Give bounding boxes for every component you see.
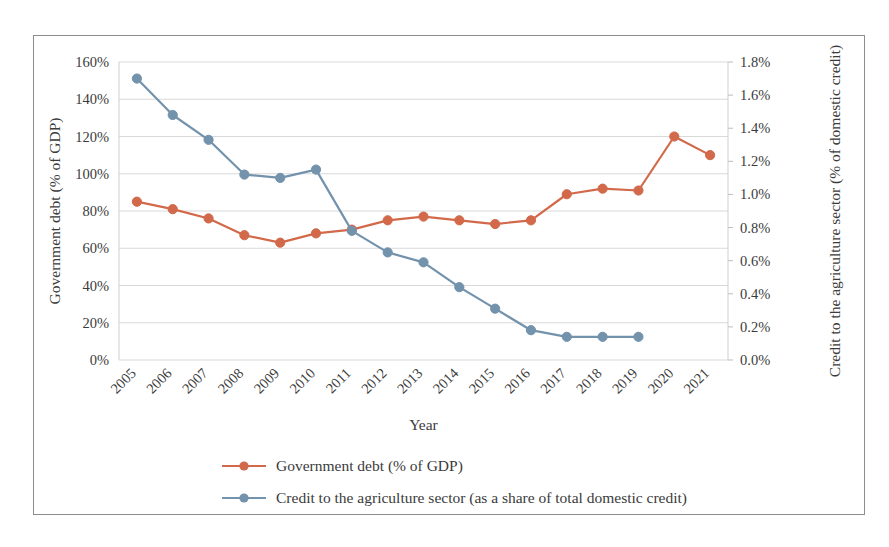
chart-figure-frame: 0%20%40%60%80%100%120%140%160%0.0%0.2%0.… xyxy=(33,35,865,515)
series-marker-2[interactable] xyxy=(598,332,607,341)
series-marker-2[interactable] xyxy=(204,135,213,144)
series-marker-2[interactable] xyxy=(347,226,356,235)
series-marker-2[interactable] xyxy=(168,110,177,119)
y-axis-tick-label: 120% xyxy=(75,129,109,145)
y2-axis-tick-label: 0.2% xyxy=(740,319,770,335)
x-axis-title: Year xyxy=(409,416,438,433)
x-axis-tick-label: 2007 xyxy=(179,365,211,397)
y2-axis-tick-label: 0.4% xyxy=(740,286,770,302)
series-marker-2[interactable] xyxy=(276,173,285,182)
series-marker-1[interactable] xyxy=(526,216,535,225)
y2-axis-title: Credit to the agriculture sector (% of d… xyxy=(826,45,844,377)
y-axis-title: Government debt (% of GDP) xyxy=(46,118,64,305)
series-marker-1[interactable] xyxy=(419,212,428,221)
series-marker-1[interactable] xyxy=(705,151,714,160)
y2-axis-tick-label: 1.6% xyxy=(740,87,770,103)
y-axis-tick-label: 80% xyxy=(82,203,109,219)
x-axis-tick-label: 2014 xyxy=(430,364,462,396)
y2-axis-tick-label: 0.8% xyxy=(740,220,770,236)
y-axis-tick-label: 160% xyxy=(75,54,109,70)
y-axis-tick-label: 100% xyxy=(75,166,109,182)
series-marker-1[interactable] xyxy=(598,184,607,193)
series-marker-2[interactable] xyxy=(240,170,249,179)
y-axis-tick-label: 0% xyxy=(90,352,109,368)
x-axis-tick-label: 2020 xyxy=(645,365,677,397)
x-axis-tick-label: 2009 xyxy=(251,365,283,397)
y-axis-tick-label: 40% xyxy=(82,278,109,294)
series-marker-1[interactable] xyxy=(311,229,320,238)
series-marker-1[interactable] xyxy=(276,238,285,247)
legend-label-1: Government debt (% of GDP) xyxy=(276,457,463,475)
series-marker-2[interactable] xyxy=(383,248,392,257)
y2-axis-tick-label: 1.0% xyxy=(740,186,770,202)
x-axis-tick-label: 2006 xyxy=(143,365,175,397)
y-axis-tick-label: 20% xyxy=(82,315,109,331)
y-axis-tick-label: 60% xyxy=(82,240,109,256)
x-axis-tick-label: 2011 xyxy=(323,365,354,396)
x-axis-tick-label: 2019 xyxy=(609,365,641,397)
series-marker-1[interactable] xyxy=(168,205,177,214)
legend-label-2: Credit to the agriculture sector (as a s… xyxy=(276,489,687,507)
legend-marker-1 xyxy=(239,461,248,470)
series-marker-1[interactable] xyxy=(670,132,679,141)
x-axis-tick-label: 2012 xyxy=(358,365,390,397)
series-marker-2[interactable] xyxy=(562,332,571,341)
series-line-2 xyxy=(137,79,639,337)
y2-axis-tick-label: 0.6% xyxy=(740,253,770,269)
x-axis-tick-label: 2010 xyxy=(286,365,318,397)
x-axis-tick-label: 2015 xyxy=(465,365,497,397)
y2-axis-tick-label: 1.8% xyxy=(740,54,770,70)
dual-axis-line-chart: 0%20%40%60%80%100%120%140%160%0.0%0.2%0.… xyxy=(34,36,866,514)
series-marker-1[interactable] xyxy=(562,190,571,199)
series-marker-1[interactable] xyxy=(132,197,141,206)
x-axis-tick-label: 2018 xyxy=(573,365,605,397)
series-marker-1[interactable] xyxy=(204,214,213,223)
series-marker-1[interactable] xyxy=(240,231,249,240)
x-axis-tick-label: 2016 xyxy=(501,365,533,397)
y2-axis-tick-label: 0.0% xyxy=(740,352,770,368)
y-axis-tick-label: 140% xyxy=(75,91,109,107)
series-marker-1[interactable] xyxy=(491,219,500,228)
series-marker-2[interactable] xyxy=(132,74,141,83)
series-marker-2[interactable] xyxy=(311,165,320,174)
series-marker-1[interactable] xyxy=(634,186,643,195)
legend-marker-2 xyxy=(239,493,248,502)
y2-axis-tick-label: 1.4% xyxy=(740,120,770,136)
series-marker-2[interactable] xyxy=(419,258,428,267)
x-axis-tick-label: 2005 xyxy=(107,365,139,397)
series-marker-2[interactable] xyxy=(491,304,500,313)
series-marker-2[interactable] xyxy=(455,283,464,292)
series-marker-1[interactable] xyxy=(383,216,392,225)
x-axis-tick-label: 2013 xyxy=(394,365,426,397)
series-marker-2[interactable] xyxy=(634,332,643,341)
x-axis-tick-label: 2017 xyxy=(537,365,569,397)
x-axis-tick-label: 2021 xyxy=(680,365,712,397)
x-axis-tick-label: 2008 xyxy=(215,365,247,397)
series-marker-1[interactable] xyxy=(455,216,464,225)
y2-axis-tick-label: 1.2% xyxy=(740,153,770,169)
series-marker-2[interactable] xyxy=(526,326,535,335)
